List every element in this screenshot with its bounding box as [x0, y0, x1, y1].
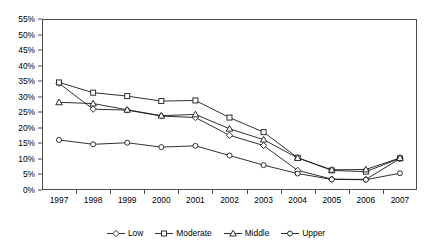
legend-label: Middle — [245, 229, 270, 238]
x-tick-label: 1999 — [118, 196, 137, 205]
y-axis: 0%5%10%15%20%25%30%35%40%45%50%55% — [0, 19, 42, 190]
plot-area — [42, 19, 417, 190]
x-tick-label: 1998 — [84, 196, 103, 205]
legend-item-upper[interactable]: Upper — [280, 228, 325, 239]
y-tick-label: 50% — [18, 31, 35, 39]
circle-marker-icon — [280, 228, 300, 239]
y-tick-mark — [38, 19, 42, 20]
x-tick-mark — [144, 190, 145, 194]
x-tick-label: 2001 — [186, 196, 205, 205]
y-tick-label: 0% — [23, 186, 35, 194]
triangle-marker-icon — [223, 228, 243, 239]
y-tick-mark — [38, 174, 42, 175]
y-tick-mark — [38, 81, 42, 82]
legend-label: Low — [128, 229, 143, 238]
x-tick-label: 2004 — [288, 196, 307, 205]
y-tick-mark — [38, 96, 42, 97]
legend-item-moderate[interactable]: Moderate — [154, 228, 211, 239]
x-tick-label: 2005 — [322, 196, 341, 205]
x-tick-mark — [315, 190, 316, 194]
x-tick-mark — [212, 190, 213, 194]
y-tick-label: 30% — [18, 93, 35, 101]
chart-title-strip — [0, 0, 431, 7]
legend-item-middle[interactable]: Middle — [223, 228, 270, 239]
x-tick-label: 2000 — [152, 196, 171, 205]
legend-label: Moderate — [176, 229, 211, 238]
y-tick-mark — [38, 65, 42, 66]
legend-label: Upper — [302, 229, 325, 238]
y-tick-label: 10% — [18, 155, 35, 163]
y-tick-label: 55% — [18, 15, 35, 23]
x-tick-label: 2007 — [391, 196, 410, 205]
x-tick-mark — [349, 190, 350, 194]
y-tick-mark — [38, 158, 42, 159]
y-tick-label: 40% — [18, 62, 35, 70]
square-marker-icon — [154, 228, 174, 239]
y-tick-label: 15% — [18, 139, 35, 147]
x-tick-label: 2003 — [254, 196, 273, 205]
y-tick-mark — [38, 112, 42, 113]
x-tick-mark — [178, 190, 179, 194]
y-tick-mark — [38, 143, 42, 144]
x-tick-label: 2002 — [220, 196, 239, 205]
x-tick-mark — [281, 190, 282, 194]
x-tick-mark — [383, 190, 384, 194]
x-tick-label: 2006 — [357, 196, 376, 205]
y-tick-label: 25% — [18, 108, 35, 116]
y-tick-mark — [38, 50, 42, 51]
x-tick-mark — [110, 190, 111, 194]
y-tick-label: 45% — [18, 46, 35, 54]
x-axis: 1997199819992000200120022003200420052006… — [42, 190, 417, 212]
y-tick-label: 35% — [18, 77, 35, 85]
x-tick-mark — [76, 190, 77, 194]
y-tick-mark — [38, 127, 42, 128]
y-tick-label: 5% — [23, 170, 35, 178]
line-chart: 0%5%10%15%20%25%30%35%40%45%50%55% 19971… — [0, 0, 431, 250]
chart-legend: LowModerateMiddleUpper — [0, 224, 431, 242]
diamond-marker-icon — [106, 228, 126, 239]
y-tick-mark — [38, 34, 42, 35]
y-tick-label: 20% — [18, 124, 35, 132]
x-tick-mark — [247, 190, 248, 194]
legend-item-low[interactable]: Low — [106, 228, 143, 239]
x-tick-label: 1997 — [50, 196, 69, 205]
